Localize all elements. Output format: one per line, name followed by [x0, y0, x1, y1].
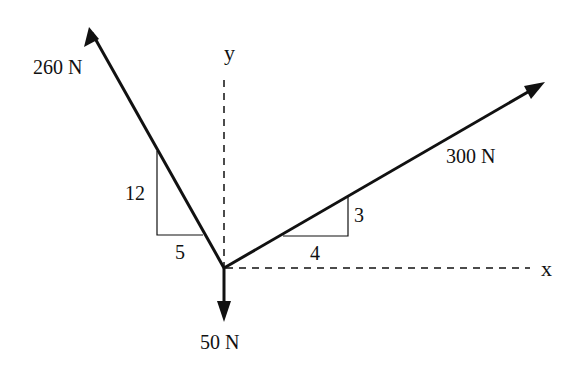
slope-rise-12: 12: [125, 182, 145, 204]
force-300-label: 300 N: [446, 145, 495, 167]
force-diagram: y x 260 N 12 5 300 N 3 4 50 N: [0, 0, 582, 374]
slope-run-5: 5: [175, 241, 185, 263]
force-300-arrow: [224, 85, 540, 268]
force-260-arrow: [92, 33, 224, 268]
x-axis-label: x: [541, 256, 552, 281]
y-axis-label: y: [224, 40, 235, 65]
force-50-label: 50 N: [200, 331, 239, 353]
slope-rise-3: 3: [354, 204, 364, 226]
arrowhead-icon: [217, 301, 231, 322]
arrowhead-icon: [524, 82, 545, 99]
force-260-label: 260 N: [33, 56, 82, 78]
slope-run-4: 4: [310, 242, 320, 264]
